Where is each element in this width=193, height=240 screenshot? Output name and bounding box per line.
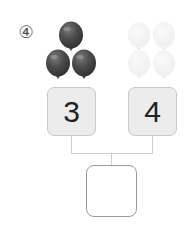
balloon-icon [46, 50, 70, 80]
balloon-icon [59, 22, 83, 52]
balloon-icon [153, 22, 175, 50]
right-number-box: 4 [128, 87, 177, 136]
dark-balloons [46, 22, 96, 80]
balloon-icon [128, 22, 150, 50]
connector-left [71, 136, 72, 153]
connector-right [152, 136, 153, 153]
balloon-icon [153, 50, 175, 78]
answer-box[interactable] [86, 165, 137, 217]
balloon-icon [72, 50, 96, 80]
left-number-box: 3 [47, 87, 96, 136]
connector-horizontal [71, 153, 153, 154]
faint-balloons [128, 22, 175, 78]
balloon-icon [128, 50, 150, 78]
